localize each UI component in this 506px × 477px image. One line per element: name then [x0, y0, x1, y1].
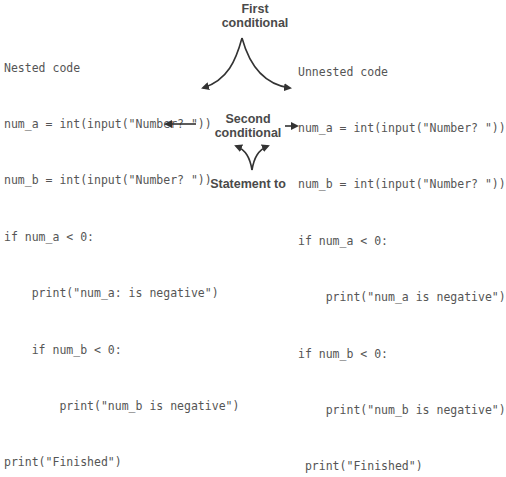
nested-code-line: if num_a < 0: [4, 228, 239, 247]
statement-left-arrow [236, 146, 252, 170]
nested-code-line: print("num_b is negative") [4, 397, 239, 416]
nested-code-line: if num_b < 0: [4, 341, 239, 360]
unnested-code-line: print("num_b is negative") [298, 401, 506, 420]
first-conditional-right-arrow [242, 38, 290, 88]
statement-right-arrow [252, 146, 268, 170]
unnested-code-line: print("Finished") [298, 457, 506, 476]
nested-code-line: print("Finished") [4, 453, 239, 472]
first-conditional-left-arrow [203, 38, 242, 88]
unnested-code-line: if num_a < 0: [298, 232, 506, 251]
unnested-code-line: if num_b < 0: [298, 345, 506, 364]
nested-code-line: print("num_a: is negative") [4, 284, 239, 303]
unnested-code-line: print("num_a is negative") [298, 288, 506, 307]
